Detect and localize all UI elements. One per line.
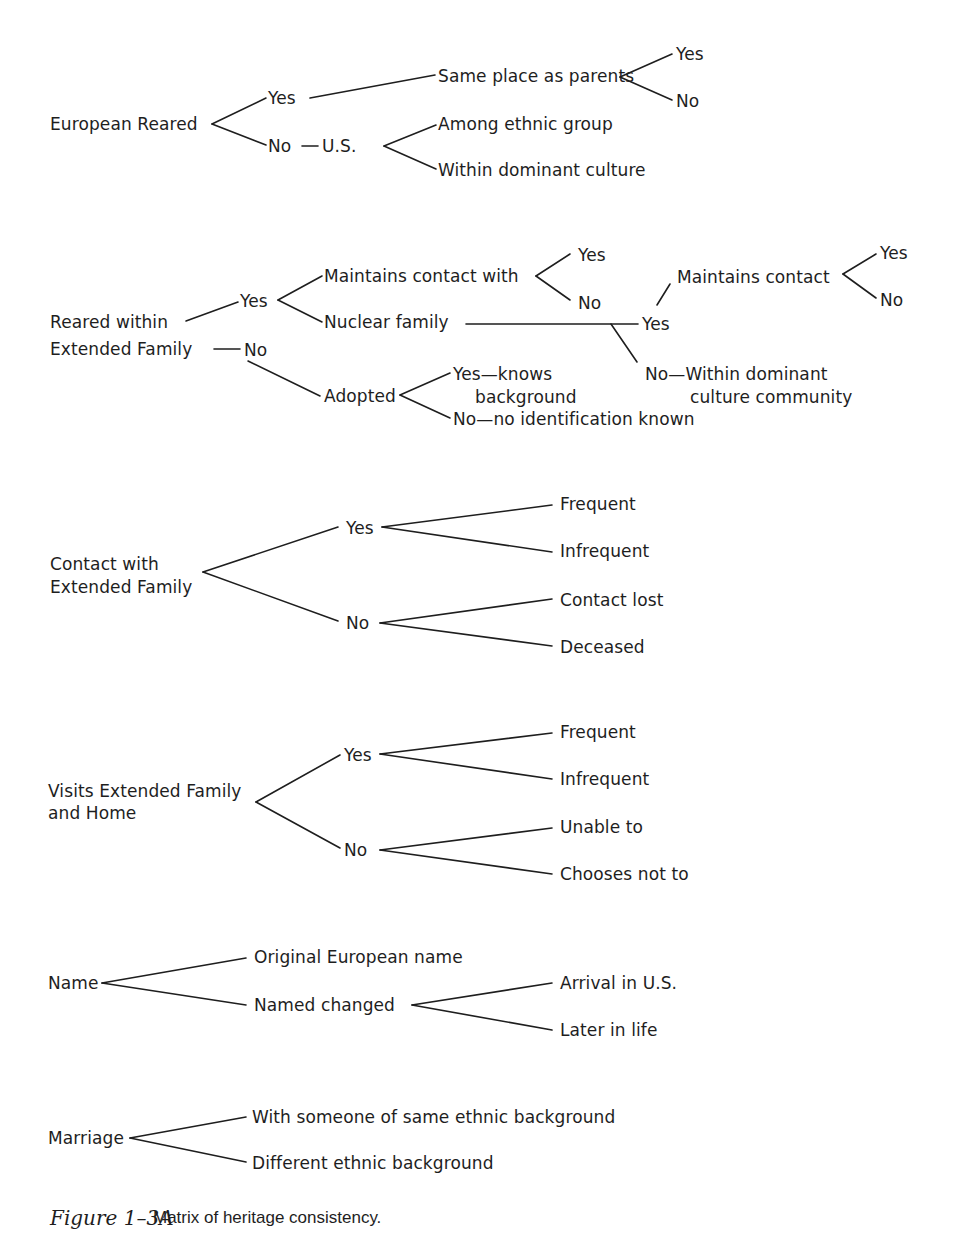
node-root: Name [48, 973, 99, 993]
node-frequent: Frequent [560, 722, 636, 742]
node-same-place-no: No [676, 91, 699, 111]
node-no: No [346, 613, 369, 633]
node-deceased: Deceased [560, 637, 645, 657]
node-within: Within dominant culture [438, 160, 646, 180]
node-among: Among ethnic group [438, 114, 613, 134]
node-changed: Named changed [254, 995, 395, 1015]
node-root: European Reared [50, 114, 198, 134]
node-root-line1: Visits Extended Family [48, 781, 242, 801]
node-root-line1: Contact with [50, 554, 159, 574]
node-nuclear-no-line1: No—Within dominant [645, 364, 828, 384]
node-maintains-yes: Yes [880, 243, 908, 263]
node-infrequent: Infrequent [560, 769, 649, 789]
node-maintains: Maintains contact [677, 267, 830, 287]
node-root-line2: Extended Family [50, 577, 192, 597]
node-unable: Unable to [560, 817, 643, 837]
node-us: U.S. [322, 136, 356, 156]
node-no: No [244, 340, 267, 360]
node-maintains-with-yes: Yes [578, 245, 606, 265]
connector-lines [0, 0, 956, 1253]
caption-text: Matrix of heritage consistency. [153, 1208, 381, 1228]
node-adopted-yes-line1: Yes—knows [453, 364, 552, 384]
node-original: Original European name [254, 947, 463, 967]
node-maintains-with-no: No [578, 293, 601, 313]
node-yes: Yes [346, 518, 374, 538]
node-root-line2: Extended Family [50, 339, 192, 359]
node-nuclear-no-line2: culture community [690, 387, 852, 407]
node-maintains-no: No [880, 290, 903, 310]
node-frequent: Frequent [560, 494, 636, 514]
node-later: Later in life [560, 1020, 658, 1040]
node-adopted: Adopted [324, 386, 396, 406]
node-contact-lost: Contact lost [560, 590, 663, 610]
node-different: Different ethnic background [252, 1153, 494, 1173]
node-root-line1: Reared within [50, 312, 168, 332]
node-yes: Yes [240, 291, 268, 311]
node-no: No [268, 136, 291, 156]
node-root-line2: and Home [48, 803, 136, 823]
node-maintains-with: Maintains contact with [324, 266, 519, 286]
node-same-place: Same place as parents [438, 66, 634, 86]
node-no: No [344, 840, 367, 860]
node-nuclear-yes: Yes [642, 314, 670, 334]
node-same: With someone of same ethnic background [252, 1107, 615, 1127]
node-infrequent: Infrequent [560, 541, 649, 561]
node-nuclear: Nuclear family [324, 312, 449, 332]
node-adopted-yes-line2: background [475, 387, 577, 407]
node-adopted-no: No—no identification known [453, 409, 695, 429]
node-arrival: Arrival in U.S. [560, 973, 677, 993]
node-yes: Yes [344, 745, 372, 765]
node-chooses: Chooses not to [560, 864, 689, 884]
node-yes: Yes [268, 88, 296, 108]
node-same-place-yes: Yes [676, 44, 704, 64]
node-root: Marriage [48, 1128, 124, 1148]
